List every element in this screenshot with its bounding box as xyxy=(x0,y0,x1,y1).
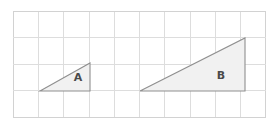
grid-diagram: A B xyxy=(0,0,279,125)
triangle-b-label: B xyxy=(217,69,225,82)
triangle-a-label: A xyxy=(74,71,83,84)
figure-canvas: A B xyxy=(0,0,279,125)
